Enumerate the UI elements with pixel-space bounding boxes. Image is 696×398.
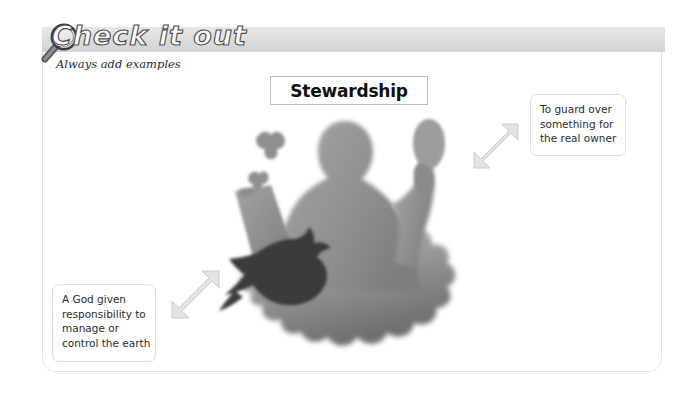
page-title: Stewardship xyxy=(290,81,408,101)
callout-line: control the earth xyxy=(62,336,146,351)
callout-line: the real owner xyxy=(540,131,616,146)
callout-line: To guard over xyxy=(540,102,616,117)
stewardship-title-box: Stewardship xyxy=(270,76,428,105)
callout-line: A God given xyxy=(62,292,146,307)
callout-line: manage or xyxy=(62,321,146,336)
callout-guard-over: To guard over something for the real own… xyxy=(530,94,626,156)
slide-page: Check it out Always add examples Steward… xyxy=(0,0,696,398)
callout-god-given-responsibility: A God given responsibility to manage or … xyxy=(52,284,156,362)
header-title: Check it out xyxy=(52,20,247,51)
double-headed-diagonal-arrow-right xyxy=(468,118,530,174)
callout-line: something for xyxy=(540,117,616,132)
double-headed-diagonal-arrow-left xyxy=(166,266,232,324)
stewardship-silhouette-illustration xyxy=(205,105,495,360)
header-subtitle: Always add examples xyxy=(56,57,181,71)
callout-line: responsibility to xyxy=(62,307,146,322)
